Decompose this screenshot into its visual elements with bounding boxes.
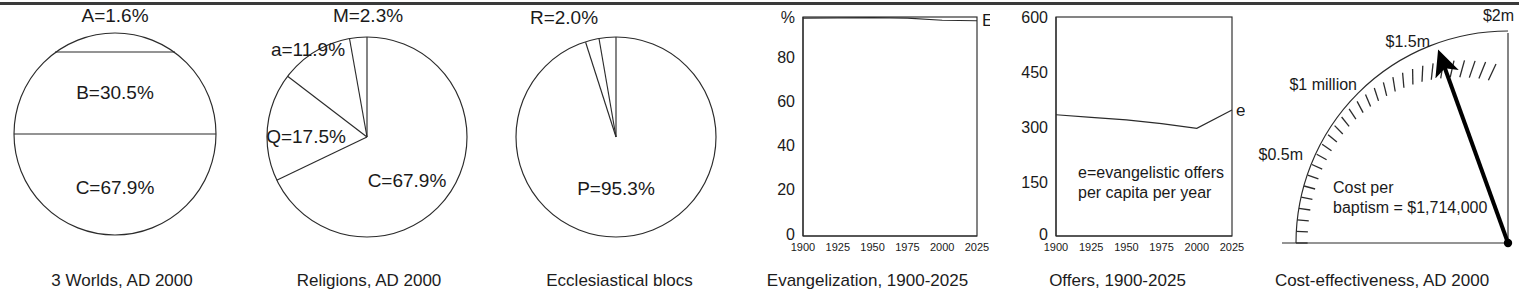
- x-tick-label-1975: 1975: [895, 241, 919, 253]
- gauge-label-0-5m: $0.5m: [1259, 146, 1303, 163]
- panel-cost-effectiveness: $0.5m $1 million $1.5m $2m Cost per bapt…: [1245, 0, 1519, 299]
- x-tick-label-1950: 1950: [860, 241, 884, 253]
- slice-label-c: C=67.9%: [368, 170, 447, 191]
- caption-evangelization: Evangelization, 1900-2025: [745, 271, 990, 291]
- y-tick-label-percent: %: [781, 9, 795, 26]
- annotation-line-2: per capita per year: [1078, 184, 1212, 201]
- three-worlds-chart: A=1.6% B=30.5% C=67.9%: [0, 0, 244, 262]
- series-end-label-e: e: [1236, 101, 1245, 120]
- slice-label-b: B=30.5%: [76, 82, 154, 103]
- gauge-label-1-5m: $1.5m: [1386, 33, 1430, 50]
- religions-chart: M=2.3% a=11.9% Q=17.5% C=67.9%: [244, 0, 494, 262]
- gauge-label-2m: $2m: [1483, 7, 1514, 24]
- offers-chart: 600 450 300 150 0 1900 1925 1950 1975 20…: [990, 0, 1245, 262]
- panel-ecclesiastical-blocs: R=2.0% P=95.3% Ecclesiastical blocs: [494, 0, 745, 299]
- slice-label-q: Q=17.5%: [266, 126, 346, 147]
- y-tick-label-300: 300: [1021, 119, 1048, 136]
- panel-religions: M=2.3% a=11.9% Q=17.5% C=67.9% Religions…: [244, 0, 494, 299]
- slice-label-a: A=1.6%: [81, 5, 148, 26]
- x-tick-label-1950: 1950: [1114, 241, 1138, 253]
- y-tick-label-20: 20: [777, 181, 795, 198]
- evangelization-chart: % 80 60 40 20 0 1900 1925 1950 1975 2000…: [745, 0, 990, 262]
- caption-three-worlds: 3 Worlds, AD 2000: [0, 271, 244, 291]
- series-line-e: [1056, 110, 1232, 128]
- y-tick-label-80: 80: [777, 49, 795, 66]
- annotation-line-2: baptism = $1,714,000: [1333, 199, 1487, 216]
- x-tick-label-2025: 2025: [1220, 241, 1244, 253]
- gauge-pivot: [1504, 239, 1512, 247]
- y-tick-label-150: 150: [1021, 174, 1048, 191]
- x-tick-label-1925: 1925: [826, 241, 850, 253]
- y-tick-label-40: 40: [777, 137, 795, 154]
- x-tick-label-1900: 1900: [1044, 241, 1068, 253]
- annotation-line-1: Cost per: [1333, 179, 1394, 196]
- pie-divider-r: [586, 42, 616, 137]
- series-line-E: [803, 18, 977, 21]
- y-tick-label-450: 450: [1021, 64, 1048, 81]
- x-tick-label-2025: 2025: [965, 241, 989, 253]
- x-tick-label-2000: 2000: [930, 241, 954, 253]
- annotation-line-1: e=evangelistic offers: [1078, 164, 1224, 181]
- gauge-needle: [1443, 63, 1508, 243]
- pie-divider-sliver: [599, 39, 616, 138]
- plot-frame: [1056, 17, 1232, 236]
- slice-label-m: M=2.3%: [333, 5, 403, 26]
- caption-offers: Offers, 1900-2025: [990, 271, 1245, 291]
- gauge-label-1-million: $1 million: [1289, 76, 1357, 93]
- caption-religions: Religions, AD 2000: [244, 271, 494, 291]
- slice-label-c: C=67.9%: [76, 177, 155, 198]
- panel-three-worlds: A=1.6% B=30.5% C=67.9% 3 Worlds, AD 2000: [0, 0, 244, 299]
- panel-offers: 600 450 300 150 0 1900 1925 1950 1975 20…: [990, 0, 1245, 299]
- x-tick-label-2000: 2000: [1185, 241, 1209, 253]
- y-tick-label-600: 600: [1021, 9, 1048, 26]
- plot-frame: [803, 17, 977, 236]
- pie-divider-a-m: [350, 39, 368, 138]
- y-tick-label-60: 60: [777, 93, 795, 110]
- x-tick-label-1925: 1925: [1079, 241, 1103, 253]
- x-tick-label-1975: 1975: [1149, 241, 1173, 253]
- slice-label-a: a=11.9%: [271, 39, 345, 60]
- caption-ecclesiastical-blocs: Ecclesiastical blocs: [494, 271, 745, 291]
- x-tick-label-1900: 1900: [791, 241, 815, 253]
- ecclesiastical-blocs-chart: R=2.0% P=95.3%: [494, 0, 745, 262]
- caption-cost-effectiveness: Cost-effectiveness, AD 2000: [1245, 271, 1519, 291]
- cost-effectiveness-gauge: $0.5m $1 million $1.5m $2m Cost per bapt…: [1245, 0, 1519, 262]
- slice-label-r: R=2.0%: [530, 7, 598, 28]
- panel-evangelization: % 80 60 40 20 0 1900 1925 1950 1975 2000…: [745, 0, 990, 299]
- slice-label-p: P=95.3%: [577, 178, 655, 199]
- series-end-label-E: E: [982, 11, 990, 30]
